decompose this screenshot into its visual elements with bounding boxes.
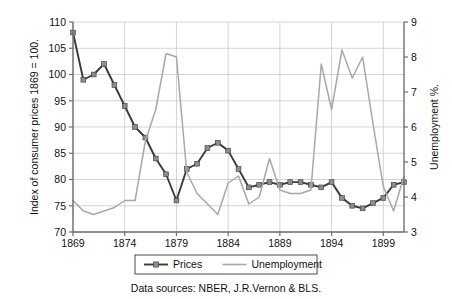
data-point-marker xyxy=(195,161,200,166)
data-point-marker xyxy=(246,185,251,190)
y2-tick-label: 3 xyxy=(411,226,417,238)
data-point-marker xyxy=(340,195,345,200)
y-tick-label: 85 xyxy=(54,147,66,159)
data-point-marker xyxy=(226,148,231,153)
series-line-prices xyxy=(73,33,404,209)
data-point-marker xyxy=(91,72,96,77)
y2-tick-label: 4 xyxy=(411,191,417,203)
data-point-marker xyxy=(257,182,262,187)
data-point-marker xyxy=(102,62,107,67)
x-tick-label: 1899 xyxy=(372,237,396,249)
legend-label-prices: Prices xyxy=(173,258,202,270)
data-point-marker xyxy=(319,185,324,190)
y2-tick-label: 7 xyxy=(411,86,417,98)
data-point-marker xyxy=(381,195,386,200)
x-tick-label: 1894 xyxy=(320,237,344,249)
x-tick-label: 1879 xyxy=(165,237,189,249)
data-point-marker xyxy=(112,83,117,88)
data-point-marker xyxy=(371,201,376,206)
dual-axis-line-chart: 7075808590951001051103456789186918741879… xyxy=(0,0,452,299)
chart-legend: PricesUnemployment xyxy=(135,255,322,274)
y2-tick-label: 5 xyxy=(411,156,417,168)
data-point-marker xyxy=(360,206,365,211)
data-point-marker xyxy=(267,180,272,185)
data-point-marker xyxy=(164,172,169,177)
grid-lines xyxy=(73,22,404,232)
chart-figure: 7075808590951001051103456789186918741879… xyxy=(0,0,452,299)
y2-tick-label: 9 xyxy=(411,16,417,28)
y2-tick-label: 8 xyxy=(411,51,417,63)
y-tick-label: 75 xyxy=(54,200,66,212)
y-tick-label: 95 xyxy=(54,95,66,107)
data-point-marker xyxy=(174,198,179,203)
y-tick-label: 70 xyxy=(54,226,66,238)
data-point-marker xyxy=(153,156,158,161)
data-point-marker xyxy=(350,203,355,208)
legend-label-unemployment: Unemployment xyxy=(251,258,322,270)
y2-axis-title: Unemployment %. xyxy=(428,84,440,170)
tick-labels: 7075808590951001051103456789186918741879… xyxy=(48,16,417,249)
data-point-marker xyxy=(236,167,241,172)
x-tick-label: 1874 xyxy=(113,237,137,249)
data-point-marker xyxy=(329,180,334,185)
legend-marker xyxy=(154,262,159,267)
data-point-marker xyxy=(133,125,138,130)
data-point-marker xyxy=(122,104,127,109)
y-tick-label: 100 xyxy=(48,68,66,80)
data-point-marker xyxy=(288,180,293,185)
data-point-marker xyxy=(215,140,220,145)
y-tick-label: 110 xyxy=(49,16,66,28)
y-axis-title: Index of consumer prices 1869 = 100. xyxy=(28,39,40,215)
x-tick-label: 1869 xyxy=(61,237,85,249)
data-point-marker xyxy=(298,180,303,185)
y-tick-label: 90 xyxy=(54,121,66,133)
y-tick-label: 80 xyxy=(54,173,66,185)
y2-tick-label: 6 xyxy=(411,121,417,133)
y-tick-label: 105 xyxy=(48,42,66,54)
data-source-note: Data sources: NBER, J.R.Vernon & BLS. xyxy=(131,282,321,294)
data-point-marker xyxy=(81,77,86,82)
series-lines xyxy=(71,30,407,214)
data-point-marker xyxy=(205,146,210,151)
x-tick-label: 1889 xyxy=(268,237,292,249)
x-tick-label: 1884 xyxy=(216,237,240,249)
data-point-marker xyxy=(391,182,396,187)
